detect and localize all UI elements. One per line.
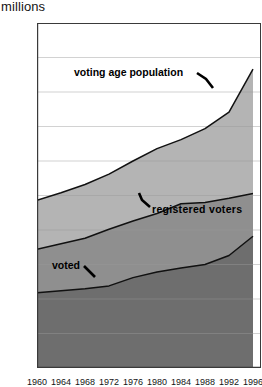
series-label-voted: voted (52, 259, 80, 271)
x-axis-tick-1964: 1964 (51, 377, 71, 387)
x-axis-tick-1996: 1996 (243, 377, 262, 387)
x-axis-tick-1980: 1980 (147, 377, 167, 387)
y-axis-unit-label: millions (1, 0, 45, 14)
x-axis-tick-1992: 1992 (219, 377, 239, 387)
x-axis-tick-1988: 1988 (195, 377, 215, 387)
x-axis-tick-1960: 1960 (27, 377, 47, 387)
series-label-voting-age-population: voting age population (74, 66, 183, 78)
series-label-registered-voters: registered voters (152, 203, 242, 215)
x-axis-tick-1976: 1976 (123, 377, 143, 387)
x-axis-tick-1968: 1968 (75, 377, 95, 387)
x-axis-tick-1972: 1972 (99, 377, 119, 387)
stacked-area-chart: millions 050100150200250300350400450500 … (0, 0, 262, 387)
x-axis-tick-1984: 1984 (171, 377, 191, 387)
